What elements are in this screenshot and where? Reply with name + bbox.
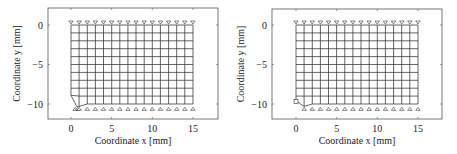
y-tick-label: −5: [32, 59, 43, 70]
down-triangle-icon: [174, 21, 178, 24]
down-triangle-icon: [326, 21, 330, 24]
down-triangle-icon: [142, 21, 146, 24]
down-triangle-icon: [77, 21, 81, 24]
x-tick-label: 10: [147, 123, 157, 134]
down-triangle-icon: [69, 21, 73, 24]
x-tick-label: 0: [294, 123, 299, 134]
up-triangle-icon: [93, 107, 97, 110]
down-triangle-icon: [93, 21, 97, 24]
y-tick-label: 0: [38, 20, 43, 31]
x-tick-label: 0: [69, 123, 74, 134]
down-triangle-icon: [302, 21, 306, 24]
up-triangle-icon: [351, 107, 355, 110]
x-tick-label: 15: [413, 123, 423, 134]
down-triangle-icon: [134, 21, 138, 24]
y-tick-label: 0: [262, 20, 267, 31]
up-triangle-icon: [158, 107, 162, 110]
down-triangle-icon: [109, 21, 113, 24]
x-tick-label: 5: [334, 123, 339, 134]
down-triangle-icon: [343, 21, 347, 24]
down-triangle-icon: [118, 21, 122, 24]
down-triangle-icon: [416, 21, 420, 24]
down-triangle-icon: [191, 21, 195, 24]
up-triangle-icon: [318, 107, 322, 110]
up-triangle-icon: [399, 107, 403, 110]
up-triangle-icon: [85, 107, 89, 110]
x-tick-label: 10: [372, 123, 382, 134]
up-triangle-icon: [302, 107, 306, 110]
up-triangle-icon: [101, 107, 105, 110]
up-triangle-icon: [134, 107, 138, 110]
down-triangle-icon: [383, 21, 387, 24]
down-triangle-icon: [158, 21, 162, 24]
up-triangle-icon: [375, 107, 379, 110]
up-triangle-icon: [142, 107, 146, 110]
y-tick-label: −10: [251, 99, 267, 110]
up-triangle-icon: [118, 107, 122, 110]
up-triangle-icon: [174, 107, 178, 110]
down-triangle-icon: [399, 21, 403, 24]
up-triangle-icon: [109, 107, 113, 110]
up-triangle-icon: [166, 107, 170, 110]
down-triangle-icon: [294, 21, 298, 24]
down-triangle-icon: [183, 21, 187, 24]
mesh: [296, 25, 418, 106]
up-triangle-icon: [150, 107, 154, 110]
down-triangle-icon: [408, 21, 412, 24]
up-triangle-icon: [383, 107, 387, 110]
down-triangle-icon: [375, 21, 379, 24]
down-triangle-icon: [126, 21, 130, 24]
up-triangle-icon: [343, 107, 347, 110]
down-triangle-icon: [85, 21, 89, 24]
down-triangle-icon: [318, 21, 322, 24]
y-tick-label: −5: [256, 59, 267, 70]
up-triangle-icon: [416, 107, 420, 110]
down-triangle-icon: [334, 21, 338, 24]
up-triangle-icon: [326, 107, 330, 110]
up-triangle-icon: [126, 107, 130, 110]
mesh-plot-right: 0510150−5−10Coordinate x [mm]Coordinate …: [235, 9, 442, 146]
down-triangle-icon: [166, 21, 170, 24]
supports: [69, 21, 195, 110]
down-triangle-icon: [391, 21, 395, 24]
supports: [294, 21, 420, 110]
up-triangle-icon: [183, 107, 187, 110]
up-triangle-icon: [408, 107, 412, 110]
up-triangle-icon: [367, 107, 371, 110]
up-triangle-icon: [391, 107, 395, 110]
up-triangle-icon: [310, 107, 314, 110]
down-triangle-icon: [150, 21, 154, 24]
down-triangle-icon: [101, 21, 105, 24]
down-triangle-icon: [310, 21, 314, 24]
down-triangle-icon: [367, 21, 371, 24]
x-axis-label: Coordinate x [mm]: [319, 135, 396, 146]
mesh-plot-left: 0510150−5−10Coordinate x [mm]Coordinate …: [11, 8, 218, 146]
y-axis-label: Coordinate y [mm]: [11, 25, 22, 102]
up-triangle-icon: [359, 107, 363, 110]
y-tick-label: −10: [27, 99, 43, 110]
mesh: [71, 25, 193, 106]
x-axis-label: Coordinate x [mm]: [95, 135, 172, 146]
x-tick-label: 5: [109, 123, 114, 134]
up-triangle-icon: [334, 107, 338, 110]
down-triangle-icon: [359, 21, 363, 24]
down-triangle-icon: [351, 21, 355, 24]
up-triangle-icon: [191, 107, 195, 110]
figure: 0510150−5−10Coordinate x [mm]Coordinate …: [0, 0, 457, 154]
y-axis-label: Coordinate y [mm]: [235, 26, 246, 103]
square-marker-icon: [294, 100, 298, 104]
x-tick-label: 15: [188, 123, 198, 134]
